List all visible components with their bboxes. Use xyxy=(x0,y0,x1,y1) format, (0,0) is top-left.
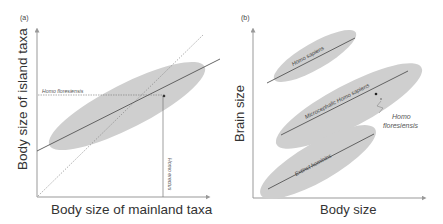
floresiensis-label-line1: Homo xyxy=(392,113,411,120)
panel-a-regression-line xyxy=(37,59,220,151)
panel-a-label: (a) xyxy=(20,14,29,22)
group-homo-sapiens: Homo sapiens xyxy=(267,21,362,91)
floresiensis-secondary-point xyxy=(380,98,382,100)
panel-b-y-axis-title: Brain size xyxy=(232,85,247,142)
panel-b-label: (b) xyxy=(241,14,250,22)
floresiensis-label-line2: floresiensis xyxy=(383,122,419,129)
panel-a: (a) Homo floresiensis Homo erectus Body … xyxy=(15,14,220,217)
panel-a-y-axis-title: Body size of island taxa xyxy=(15,28,30,170)
homo-sapiens-ellipse xyxy=(268,21,362,91)
panel-a-x-axis-title: Body size of mainland taxa xyxy=(51,202,213,217)
panel-b-x-axis-title: Body size xyxy=(320,202,376,217)
figure-canvas: (a) Homo floresiensis Homo erectus Body … xyxy=(0,0,443,224)
panel-a-erectus-label: Homo erectus xyxy=(167,158,173,191)
panel-b: (b) Homo sapiens Microcephalic Homo sapi… xyxy=(232,14,431,217)
panel-a-floresiensis-point xyxy=(163,95,166,98)
floresiensis-point xyxy=(375,93,378,96)
panel-a-floresiensis-label: Homo floresiensis xyxy=(42,88,84,94)
